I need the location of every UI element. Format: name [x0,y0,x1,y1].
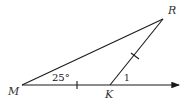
triangle-diagram: R M K 25° 1 [0,0,186,104]
side-kr [110,19,163,85]
angle-label-m: 25° [52,72,70,83]
side-mr [22,19,163,85]
vertex-label-r: R [167,4,176,17]
vertex-label-k: K [104,88,114,101]
vertex-label-m: M [7,85,20,98]
angle-label-1: 1 [124,73,130,83]
